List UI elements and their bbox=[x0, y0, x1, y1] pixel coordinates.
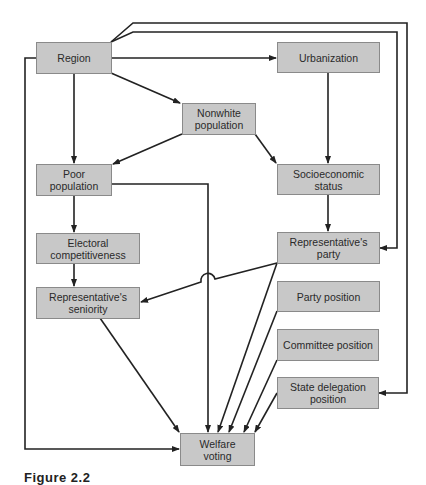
edge-region-nonwhite bbox=[111, 73, 180, 103]
edge-seniority-welfare bbox=[100, 318, 179, 432]
edge-repparty-seniority bbox=[141, 263, 277, 302]
node-committee-position: Committee position bbox=[277, 329, 379, 361]
edge-nonwhite-ses bbox=[255, 134, 276, 163]
node-nonwhite-population: Nonwhite population bbox=[182, 103, 256, 135]
edge-nonwhite-poor bbox=[113, 134, 182, 164]
node-welfare-voting: Welfare voting bbox=[180, 433, 255, 466]
node-urbanization: Urbanization bbox=[277, 42, 380, 73]
node-state-delegation-position: State delegation position bbox=[277, 377, 379, 409]
node-electoral-competitiveness: Electoral competitiveness bbox=[36, 233, 140, 264]
edge-statedelegation-welfare bbox=[255, 393, 277, 432]
node-representatives-seniority: Representative's seniority bbox=[36, 287, 140, 319]
node-representatives-party: Representative's party bbox=[277, 232, 380, 264]
node-poor-population: Poor population bbox=[36, 164, 112, 196]
edge-repparty-welfare bbox=[218, 263, 277, 432]
node-party-position: Party position bbox=[277, 281, 380, 312]
node-region: Region bbox=[36, 42, 112, 74]
node-socioeconomic-status: Socioeconomic status bbox=[277, 164, 380, 195]
figure-caption: Figure 2.2 bbox=[24, 470, 90, 485]
